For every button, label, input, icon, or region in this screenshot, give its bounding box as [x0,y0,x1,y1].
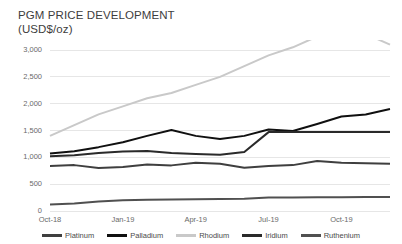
y-tick-label: 2,500 [0,72,42,81]
legend-label: Ruthenium [324,231,360,240]
series-line-rhodium [50,40,390,136]
series-line-platinum [50,161,390,168]
legend-swatch-icon [42,234,62,237]
x-tick-label: Oct-19 [311,215,371,224]
legend-item-ruthenium[interactable]: Ruthenium [301,231,360,240]
series-line-iridium [50,132,390,156]
y-tick-label: 1,000 [0,152,42,161]
legend-label: Platinum [65,231,94,240]
legend-item-iridium[interactable]: Iridium [242,231,288,240]
y-tick-label: 2,000 [0,99,42,108]
plot-svg [0,40,402,222]
plot-area: 05001,0001,5002,0002,5003,000 Oct-18Jan-… [0,40,402,222]
x-tick-label: Jan-19 [93,215,153,224]
legend-item-rhodium[interactable]: Rhodium [176,231,229,240]
legend-label: Iridium [265,231,288,240]
series-lines [50,40,390,205]
legend-label: Palladium [130,231,163,240]
legend-swatch-icon [107,234,127,237]
series-line-ruthenium [50,197,390,205]
gridlines [50,50,390,211]
legend-label: Rhodium [199,231,229,240]
legend-item-platinum[interactable]: Platinum [42,231,94,240]
chart-title: PGM PRICE DEVELOPMENT (USD$/oz) [18,8,348,36]
y-tick-label: 3,000 [0,45,42,54]
x-tick-label: Oct-18 [20,215,80,224]
chart-legend: PlatinumPalladiumRhodiumIridiumRuthenium [0,228,402,242]
legend-item-palladium[interactable]: Palladium [107,231,163,240]
x-tick-label: Jul-19 [239,215,299,224]
x-tick-label: Apr-19 [166,215,226,224]
legend-swatch-icon [242,234,262,237]
y-tick-label: 0 [0,206,42,215]
legend-swatch-icon [176,234,196,237]
y-tick-label: 500 [0,179,42,188]
pgm-price-chart-card: PGM PRICE DEVELOPMENT (USD$/oz) 05001,00… [0,0,402,244]
legend-swatch-icon [301,234,321,237]
y-tick-label: 1,500 [0,126,42,135]
